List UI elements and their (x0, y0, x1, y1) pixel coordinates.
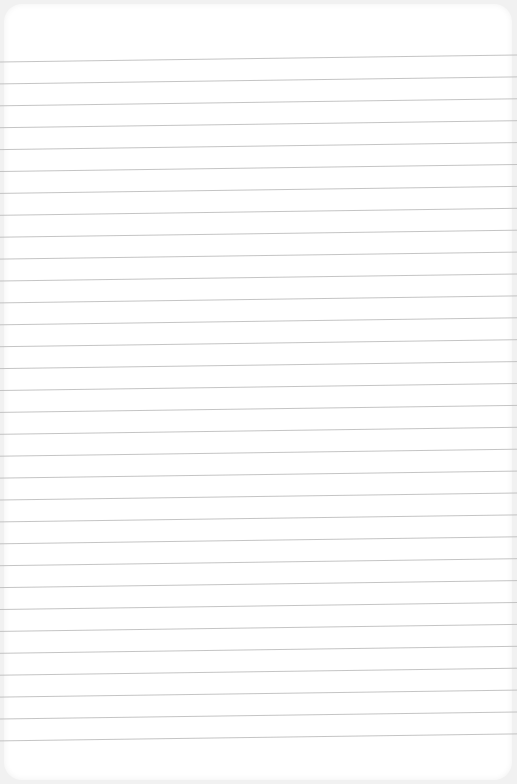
ruled-lines (0, 0, 517, 784)
ruled-line (0, 690, 517, 697)
ruled-line (0, 274, 517, 281)
ruled-line (0, 734, 517, 741)
ruled-line (0, 493, 517, 500)
ruled-line (0, 318, 517, 325)
ruled-line (0, 99, 517, 106)
ruled-line (0, 646, 517, 653)
ruled-line (0, 559, 517, 566)
ruled-line (0, 55, 517, 62)
ruled-line (0, 384, 517, 391)
ruled-line (0, 165, 517, 172)
ruled-line (0, 449, 517, 456)
ruled-line (0, 405, 517, 412)
ruled-line (0, 471, 517, 478)
ruled-line (0, 340, 517, 347)
ruled-line (0, 624, 517, 631)
ruled-line (0, 296, 517, 303)
ruled-line (0, 537, 517, 544)
ruled-line (0, 712, 517, 719)
ruled-line (0, 230, 517, 237)
ruled-line (0, 581, 517, 588)
ruled-line (0, 208, 517, 215)
ruled-line (0, 603, 517, 610)
ruled-line (0, 362, 517, 369)
ruled-line (0, 186, 517, 193)
ruled-line (0, 252, 517, 259)
ruled-line (0, 427, 517, 434)
ruled-line (0, 515, 517, 522)
ruled-line (0, 668, 517, 675)
ruled-line (0, 121, 517, 128)
ruled-line (0, 143, 517, 150)
ruled-line (0, 77, 517, 84)
